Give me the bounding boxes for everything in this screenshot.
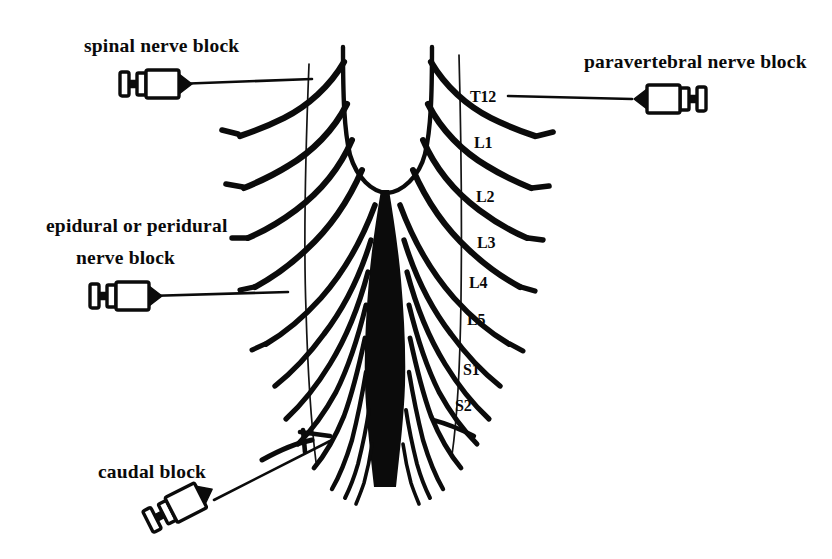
sacral-vertical-mark bbox=[303, 430, 305, 452]
root-left-9 bbox=[314, 338, 365, 468]
syringe-plunger-cap bbox=[697, 87, 706, 111]
syringe-hub bbox=[149, 286, 162, 306]
epidural-syringe[interactable] bbox=[90, 282, 162, 310]
syringe-barrel bbox=[116, 282, 149, 310]
level-label-s1: S1 bbox=[463, 361, 480, 378]
label-epidural-nerve-block-line2: nerve block bbox=[76, 247, 175, 268]
root-left-stub-2 bbox=[226, 184, 243, 187]
level-label-l1: L1 bbox=[474, 134, 492, 151]
paravertebral-needle[interactable] bbox=[508, 96, 632, 99]
root-left-stub-1 bbox=[222, 130, 238, 134]
spinal-needle[interactable] bbox=[176, 79, 312, 84]
dura-line-left bbox=[305, 64, 316, 462]
root-right-12 bbox=[403, 444, 419, 504]
level-label-l5: L5 bbox=[467, 311, 485, 328]
cauda-equina-left bbox=[222, 62, 375, 504]
spinal-block-figure: spinal nerve block paravertebral nerve b… bbox=[0, 0, 832, 559]
level-label-l2: L2 bbox=[476, 188, 494, 205]
level-label-l4: L4 bbox=[469, 274, 487, 291]
root-right-stub-2 bbox=[532, 186, 549, 188]
filum-terminale bbox=[365, 190, 406, 487]
syringe-hub bbox=[634, 89, 647, 109]
spinal-syringe[interactable] bbox=[120, 70, 192, 98]
epidural-needle[interactable] bbox=[148, 292, 288, 296]
label-paravertebral-nerve-block: paravertebral nerve block bbox=[584, 51, 807, 72]
root-left-stub-4 bbox=[240, 287, 254, 290]
caudal-syringe[interactable] bbox=[142, 477, 219, 535]
root-right-stub-1 bbox=[537, 132, 553, 136]
anatomy-illustration: spinal nerve block paravertebral nerve b… bbox=[0, 0, 832, 559]
root-right-stub-5 bbox=[510, 344, 523, 351]
syringe-barrel bbox=[647, 85, 680, 113]
root-right-stub-4 bbox=[521, 287, 535, 291]
cord-outline-path bbox=[343, 47, 432, 193]
conus-medullaris bbox=[343, 47, 432, 193]
syringe-plunger-cap bbox=[120, 72, 129, 96]
label-epidural-nerve-block-line1: epidural or peridural bbox=[46, 215, 228, 236]
syringe-plunger-cap bbox=[90, 284, 99, 308]
level-label-l3: L3 bbox=[477, 234, 495, 251]
label-spinal-nerve-block: spinal nerve block bbox=[84, 35, 239, 56]
syringe-hub bbox=[179, 74, 192, 94]
root-right-stub-3 bbox=[528, 238, 543, 240]
level-label-t12: T12 bbox=[470, 88, 496, 105]
root-left-12 bbox=[356, 444, 372, 504]
level-label-s2: S2 bbox=[455, 397, 472, 414]
root-left-stub-5 bbox=[252, 344, 265, 350]
paravertebral-syringe[interactable] bbox=[634, 85, 706, 113]
label-caudal-block: caudal block bbox=[98, 461, 206, 482]
root-left-1 bbox=[240, 62, 344, 136]
caudal-needle[interactable] bbox=[214, 441, 330, 500]
dura-line-right bbox=[452, 55, 461, 455]
filum-terminale-shape bbox=[365, 190, 406, 487]
syringe-barrel bbox=[146, 70, 179, 98]
